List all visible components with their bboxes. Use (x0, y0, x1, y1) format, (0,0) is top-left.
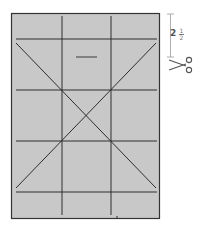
scissors-icon (169, 57, 192, 72)
measurement-whole: 2 (170, 28, 176, 38)
measurement-denominator: 2 (179, 35, 184, 41)
measurement-fraction: 1 2 (179, 28, 184, 41)
